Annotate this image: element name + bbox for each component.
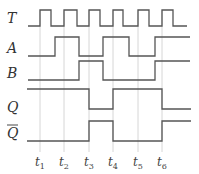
time-label-t3: t3 — [84, 155, 94, 171]
waveform-q — [27, 89, 191, 109]
waveform-b — [28, 61, 190, 80]
signal-waveforms — [27, 10, 191, 141]
time-guide-lines — [40, 10, 162, 152]
time-labels: t1t2t3t4t5t6 — [35, 155, 167, 171]
waveform-t — [28, 10, 187, 26]
time-label-t4: t4 — [108, 155, 118, 171]
signal-label-q-bar: Q — [7, 125, 19, 141]
waveform-q-bar — [27, 121, 191, 141]
signal-label-a: A — [5, 40, 17, 56]
signal-label-t: T — [7, 10, 18, 26]
signal-labels: TABQQ — [5, 10, 19, 141]
waveform-a — [28, 37, 190, 56]
signal-label-q: Q — [7, 99, 19, 115]
time-label-t1: t1 — [35, 155, 45, 171]
time-label-t2: t2 — [59, 155, 69, 171]
time-label-t5: t5 — [133, 155, 143, 171]
signal-label-b: B — [6, 65, 17, 81]
time-label-t6: t6 — [157, 155, 167, 171]
timing-diagram: TABQQ t1t2t3t4t5t6 — [0, 0, 199, 174]
